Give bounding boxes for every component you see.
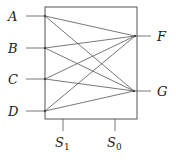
connection-C-F bbox=[45, 36, 135, 79]
connection-C-G bbox=[45, 79, 134, 91]
junction-dot bbox=[44, 78, 46, 80]
junction-dot bbox=[44, 15, 46, 17]
input-D: D bbox=[7, 104, 46, 119]
input-label: B bbox=[7, 41, 18, 56]
input-label: D bbox=[7, 104, 19, 119]
connection-A-F bbox=[45, 16, 135, 36]
input-terminals: ABCD bbox=[7, 9, 46, 119]
junction-dot bbox=[133, 90, 135, 92]
select-S1: S1 bbox=[55, 119, 70, 152]
input-label: A bbox=[7, 9, 17, 24]
junction-dot bbox=[44, 47, 46, 49]
junction-dot bbox=[44, 110, 46, 112]
output-G: G bbox=[133, 84, 168, 99]
connection-D-G bbox=[45, 91, 134, 111]
select-lines: S1S0 bbox=[55, 119, 122, 152]
connection-B-F bbox=[45, 36, 135, 48]
connection-A-G bbox=[45, 16, 134, 91]
output-label: G bbox=[157, 84, 167, 99]
input-A: A bbox=[7, 9, 46, 24]
mux-diagram: ABCD FG S1S0 bbox=[0, 0, 176, 160]
select-label: S0 bbox=[107, 135, 122, 152]
output-terminals: FG bbox=[133, 29, 168, 99]
output-F: F bbox=[134, 29, 167, 44]
connection-B-G bbox=[45, 48, 134, 91]
switch-box bbox=[45, 7, 137, 119]
select-label: S1 bbox=[55, 135, 70, 152]
select-S0: S0 bbox=[107, 119, 122, 152]
connection-D-F bbox=[45, 36, 135, 111]
input-C: C bbox=[8, 72, 46, 87]
input-label: C bbox=[8, 72, 18, 87]
junction-dot bbox=[134, 35, 136, 37]
output-label: F bbox=[156, 29, 167, 44]
input-B: B bbox=[7, 41, 46, 56]
connection-lines bbox=[45, 16, 135, 111]
